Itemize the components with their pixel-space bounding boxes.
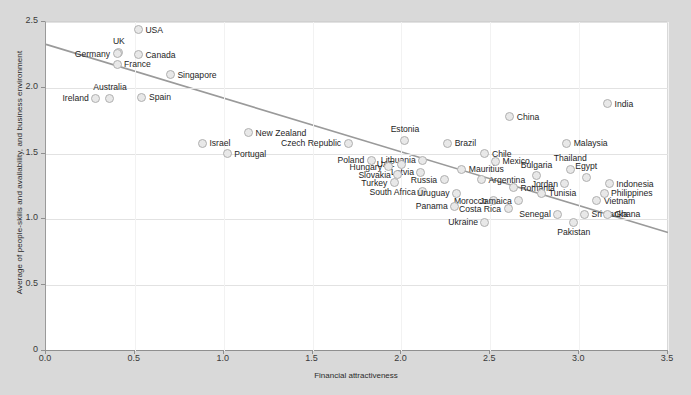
data-point[interactable] bbox=[137, 93, 146, 102]
data-point-label: New Zealand bbox=[256, 128, 307, 137]
x-tick-label: 1.0 bbox=[203, 353, 243, 363]
y-tick-mark bbox=[41, 284, 45, 285]
gridline-vertical bbox=[313, 22, 314, 351]
data-point[interactable] bbox=[166, 70, 175, 79]
data-point[interactable] bbox=[569, 218, 578, 227]
y-tick-mark bbox=[41, 218, 45, 219]
data-point-label: USA bbox=[145, 25, 163, 34]
data-point-label: Singapore bbox=[177, 70, 216, 79]
x-tick-label: 3.0 bbox=[558, 353, 598, 363]
x-axis-title: Financial attractiveness bbox=[45, 371, 667, 380]
data-point[interactable] bbox=[113, 60, 122, 69]
x-tick-label: 2.0 bbox=[380, 353, 420, 363]
gridline-vertical bbox=[135, 22, 136, 351]
gridline-vertical bbox=[224, 22, 225, 351]
data-point-label: Malaysia bbox=[574, 139, 608, 148]
data-point-label: Estonia bbox=[391, 125, 420, 134]
x-tick-label: 3.5 bbox=[647, 353, 687, 363]
data-point-label: South Africa bbox=[369, 187, 415, 196]
data-point-label: India bbox=[615, 99, 634, 108]
y-tick-mark bbox=[41, 21, 45, 22]
data-point[interactable] bbox=[198, 139, 207, 148]
data-point[interactable] bbox=[553, 210, 562, 219]
gridline-vertical bbox=[579, 22, 580, 351]
data-point-label: Ireland bbox=[62, 94, 88, 103]
gridline-horizontal bbox=[46, 285, 668, 286]
data-point-label: Costa Rica bbox=[459, 204, 501, 213]
data-point-label: Senegal bbox=[519, 210, 551, 219]
plot-area: USAUKGermanyCanadaFranceSingaporeAustral… bbox=[45, 21, 667, 350]
data-point-label: Mauritius bbox=[469, 165, 504, 174]
data-point[interactable] bbox=[582, 173, 591, 182]
x-tick-label: 2.5 bbox=[469, 353, 509, 363]
y-tick-mark bbox=[41, 87, 45, 88]
data-point[interactable] bbox=[91, 94, 100, 103]
scatter-chart: USAUKGermanyCanadaFranceSingaporeAustral… bbox=[0, 0, 691, 395]
x-tick-label: 1.5 bbox=[292, 353, 332, 363]
data-point[interactable] bbox=[344, 139, 353, 148]
data-point-label: Vietnam bbox=[604, 196, 635, 205]
data-point[interactable] bbox=[566, 165, 575, 174]
y-axis-title: Average of people-skills and availabilit… bbox=[15, 8, 24, 338]
data-point-label: Australia bbox=[93, 83, 126, 92]
data-point[interactable] bbox=[418, 156, 427, 165]
data-point-label: Uruguay bbox=[417, 189, 449, 198]
data-point-label: France bbox=[124, 60, 151, 69]
data-point-label: Russia bbox=[411, 175, 437, 184]
data-point-label: Germany bbox=[75, 49, 110, 58]
data-point-label: Czech Republic bbox=[281, 139, 341, 148]
data-point-label: Portugal bbox=[234, 149, 266, 158]
data-point-label: Egypt bbox=[575, 162, 597, 171]
data-point-label: Bulgaria bbox=[521, 161, 553, 170]
data-point[interactable] bbox=[537, 189, 546, 198]
y-tick-mark bbox=[41, 153, 45, 154]
data-point-label: Israel bbox=[209, 139, 230, 148]
data-point-label: Pakistan bbox=[557, 228, 590, 237]
gridline-vertical bbox=[668, 22, 669, 351]
data-point-label: China bbox=[517, 112, 539, 121]
data-point[interactable] bbox=[580, 210, 589, 219]
data-point-label: Brazil bbox=[455, 139, 477, 148]
data-point[interactable] bbox=[450, 202, 459, 211]
data-point-label: Panama bbox=[416, 202, 448, 211]
data-point[interactable] bbox=[443, 139, 452, 148]
gridline-horizontal bbox=[46, 22, 668, 23]
data-point[interactable] bbox=[603, 210, 612, 219]
gridline-horizontal bbox=[46, 88, 668, 89]
x-tick-label: 0.5 bbox=[114, 353, 154, 363]
x-tick-label: 0.0 bbox=[25, 353, 65, 363]
data-point-label: Ukraine bbox=[448, 218, 478, 227]
data-point[interactable] bbox=[504, 204, 513, 213]
data-point-label: Tunisia bbox=[549, 189, 576, 198]
data-point[interactable] bbox=[440, 175, 449, 184]
data-point[interactable] bbox=[562, 139, 571, 148]
data-point-label: UK bbox=[113, 37, 125, 46]
data-point-label: Ghana bbox=[615, 210, 641, 219]
data-point[interactable] bbox=[223, 149, 232, 158]
data-point[interactable] bbox=[480, 218, 489, 227]
data-point-label: Spain bbox=[149, 93, 171, 102]
trend-line bbox=[46, 22, 668, 351]
data-point[interactable] bbox=[113, 49, 122, 58]
gridline-vertical bbox=[490, 22, 491, 351]
